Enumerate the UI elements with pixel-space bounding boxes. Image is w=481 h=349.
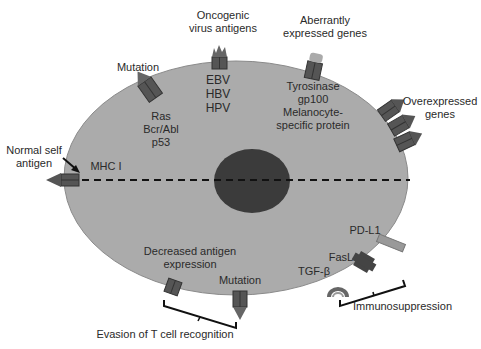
aberrant-gene-list: Tyrosinase gp100 Melanocyte- specific pr… (272, 80, 354, 132)
mutation-top-label: Mutation (108, 61, 168, 74)
mutation-bottom-receptor-icon (233, 291, 247, 320)
evasion-label: Evasion of T cell recognition (93, 328, 237, 341)
aberrant-label: Aberrantly expressed genes (280, 14, 370, 40)
fasl-label: FasL (326, 251, 356, 264)
decreased-label: Decreased antigen expression (140, 245, 240, 271)
oncogenic-label: Oncogenic virus antigens (178, 9, 268, 35)
overexpressed-label: Overexpressed genes (398, 95, 481, 121)
mhc-receptor-icon (46, 173, 79, 187)
mutation-bottom-label: Mutation (212, 274, 268, 287)
virus-antigen-receptor-icon (212, 45, 227, 69)
tgf-beta-icon (329, 289, 347, 297)
tumor-cell-diagram (0, 0, 481, 349)
mhc-label: MHC I (88, 160, 124, 173)
normal-self-label: Normal self antigen (4, 144, 64, 170)
pdl1-label: PD-L1 (347, 224, 383, 237)
evasion-bracket (164, 300, 236, 328)
tgf-beta-label: TGF-β (294, 265, 334, 278)
virus-list: EBV HBV HPV (198, 73, 238, 115)
mutation-gene-list: Ras Bcr/Abl p53 (136, 110, 186, 149)
immunosuppression-label: Immunosuppression (353, 300, 449, 313)
